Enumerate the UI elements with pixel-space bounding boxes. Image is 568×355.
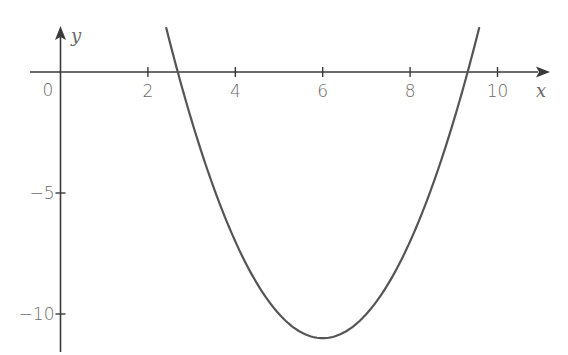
x-axis-arrow-icon [536,67,550,78]
y-tick-label: −10 [19,304,55,324]
x-tick-label: 4 [230,81,241,101]
y-ticks: −5−10 [19,183,66,324]
y-tick-label: −5 [29,183,54,203]
x-axis-label: x [536,80,546,101]
plot-area: 246810 −5−10 0 x y [19,25,550,352]
x-tick-label: 10 [487,81,509,101]
x-tick-label: 2 [142,81,153,101]
y-axis-label: y [70,25,82,46]
x-tick-label: 6 [317,81,328,101]
origin-label: 0 [43,80,54,100]
parabola-chart: 246810 −5−10 0 x y [0,0,568,355]
x-tick-label: 8 [405,81,416,101]
